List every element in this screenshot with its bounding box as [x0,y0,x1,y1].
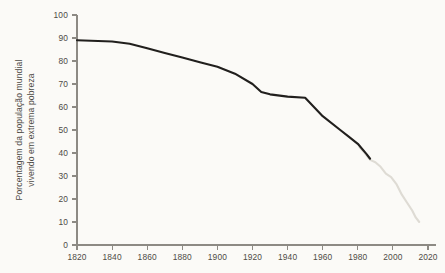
x-tick-label: 1960 [313,252,332,262]
x-tick-group: 1820184018601880190019201940196019802000… [67,245,437,262]
x-tick-label: 1860 [138,252,157,262]
line-series-recent [360,147,420,222]
x-tick-label: 1840 [102,252,121,262]
y-tick-label: 80 [58,56,68,66]
y-axis-title-line1: Porcentagem da população mundial [14,60,24,201]
series-group [77,40,419,222]
y-tick-label: 30 [58,171,68,181]
y-tick-label: 70 [58,79,68,89]
x-tick-label: 2000 [383,252,402,262]
x-tick-label: 1920 [243,252,262,262]
y-tick-label: 10 [58,217,68,227]
y-tick-label: 20 [58,194,68,204]
y-axis-title-line2: vivendo em extrema pobreza [26,73,36,187]
x-tick-label: 2020 [418,252,437,262]
x-tick-label: 1940 [278,252,297,262]
line-series-historical [77,40,370,158]
y-tick-group: 0102030405060708090100 [54,10,77,250]
y-axis-title: Porcentagem da população mundial vivendo… [14,60,36,201]
x-tick-label: 1880 [173,252,192,262]
x-tick-label: 1900 [208,252,227,262]
x-tick-label: 1820 [67,252,86,262]
y-tick-label: 0 [63,240,68,250]
y-tick-label: 60 [58,102,68,112]
y-tick-label: 100 [54,10,69,20]
x-axis: 1820184018601880190019201940196019802000… [67,245,437,262]
y-tick-label: 50 [58,125,68,135]
poverty-chart: 0102030405060708090100 18201840186018801… [0,0,445,273]
y-axis: 0102030405060708090100 [54,10,77,250]
x-tick-label: 1980 [348,252,367,262]
chart-canvas: 0102030405060708090100 18201840186018801… [0,0,445,273]
y-tick-label: 90 [58,33,68,43]
y-tick-label: 40 [58,148,68,158]
